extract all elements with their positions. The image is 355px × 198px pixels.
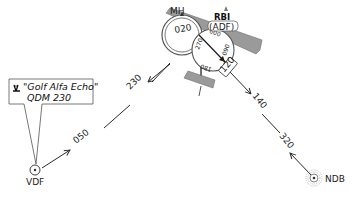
vdf-label: VDF [26, 177, 44, 187]
callout-bearing: QDM 230 [27, 92, 71, 103]
ndb-from-label: 140 [250, 91, 269, 111]
mh-label: MH [170, 6, 185, 16]
rbi-label: RBI [214, 12, 230, 22]
rbi-pointer-icon [224, 6, 228, 11]
ndb-label: NDB [325, 174, 345, 184]
adf-label: (ADF) [209, 22, 234, 32]
qdm-track-label: 230 [124, 72, 143, 91]
qdr-track-label: 050 [71, 127, 91, 146]
radio-navigation-diagram: 230 050 140 320 VDF "Golf Alfa Echo" QDM… [0, 0, 355, 198]
vdf-track-line [42, 58, 176, 168]
ndb-to-label: 320 [277, 131, 296, 151]
qdm-arrow [148, 64, 170, 82]
vdf-station-icon [30, 165, 40, 175]
callout-callsign: "Golf Alfa Echo" [23, 81, 98, 92]
ndb-track-line [230, 72, 311, 175]
